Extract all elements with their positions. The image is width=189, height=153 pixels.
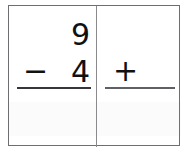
minus-sign-icon: − xyxy=(23,56,48,86)
answer-slot-left[interactable] xyxy=(15,92,91,144)
top-operand-left: 9 xyxy=(64,20,90,50)
answer-slot-right[interactable] xyxy=(103,92,179,144)
worksheet-card: 9 − 4 + xyxy=(8,5,180,146)
bottom-operand-left: 4 xyxy=(64,57,90,87)
problem-right[interactable]: + xyxy=(97,6,181,147)
plus-sign-icon: + xyxy=(113,56,138,86)
problem-left[interactable]: 9 − 4 xyxy=(9,6,96,147)
answer-rule-right xyxy=(105,87,175,89)
answer-rule-left xyxy=(17,87,91,89)
